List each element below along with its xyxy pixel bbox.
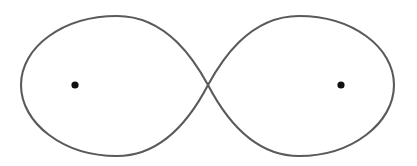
right-focus-point [337, 81, 344, 88]
left-focus-point [71, 81, 78, 88]
lemniscate-figure [0, 0, 417, 166]
figure-svg-canvas [0, 0, 417, 166]
